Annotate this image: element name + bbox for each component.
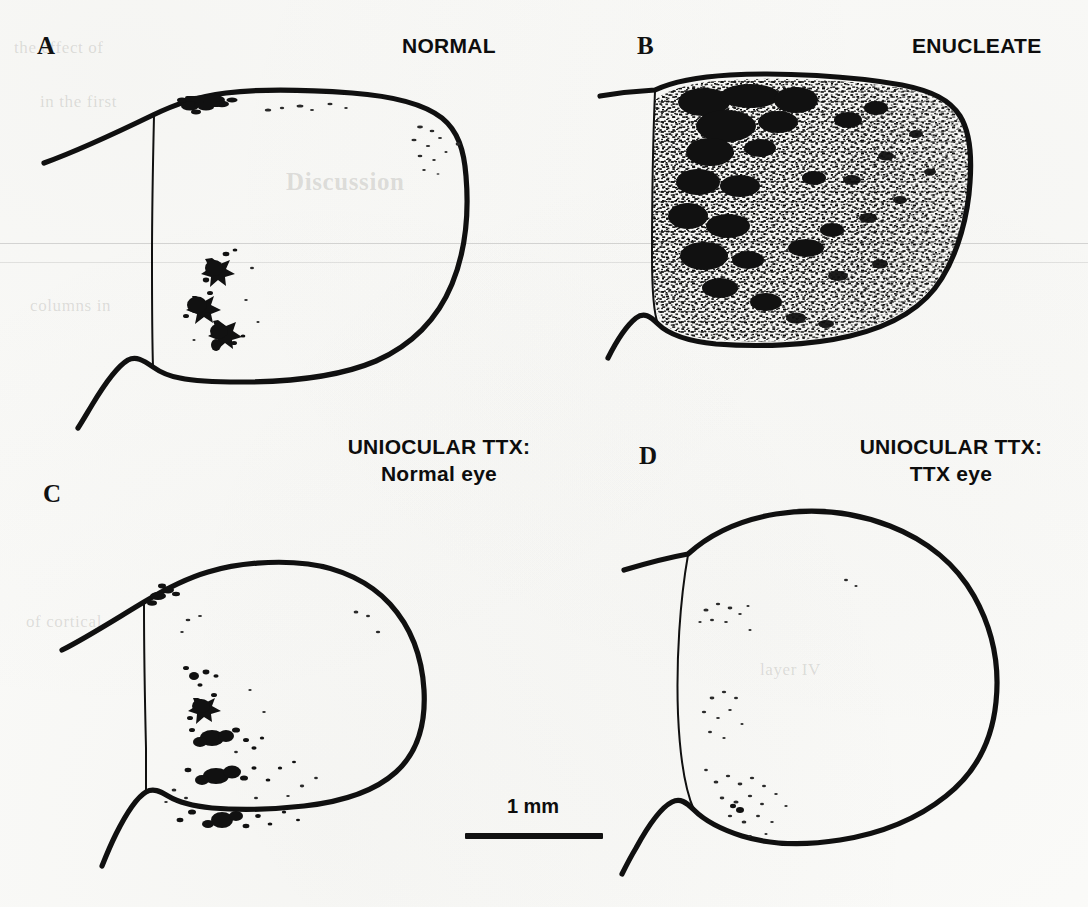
panel-d-drawing [600,470,1040,870]
panel-letter-b: B [637,33,654,58]
sparse-dots-upper-d [698,579,857,631]
panel-title-b: ENUCLEATE [912,33,1041,60]
cell-cluster-c-2 [187,693,221,724]
panel-letter-d: D [639,443,657,468]
cell-cluster-a-1 [201,248,237,287]
panel-title-d-line1: UNIOCULAR TTX: [842,434,1060,461]
layer-boundary-d [677,555,694,810]
cell-cluster-c-1 [183,666,219,687]
panel-b-drawing [600,60,1040,400]
figure-canvas: the effect of in the first Discussion co… [0,0,1088,907]
panel-title-c: UNIOCULAR TTX: Normal eye [330,434,548,488]
cell-cluster-c-4 [185,761,296,785]
cell-cluster-c-5 [177,809,300,828]
sparse-dots-upper-c [180,610,380,633]
panel-a-drawing [0,0,540,440]
scale-bar-line [465,833,603,839]
panel-title-c-line2: Normal eye [330,461,548,488]
cell-cluster-c-3 [189,727,264,749]
layer-boundary-a [152,116,154,367]
scale-bar-label: 1 mm [464,795,602,818]
sparse-dots-lower-c [164,689,318,803]
stipple-field-b [640,70,1010,360]
cell-cluster-a-2 [183,291,221,324]
panel-c-drawing [40,490,460,890]
layer-boundary-c [144,603,146,793]
label-patch-dorsal-a [177,95,238,114]
sparse-dots-mid-d [702,691,744,739]
panel-title-c-line1: UNIOCULAR TTX: [330,434,548,461]
section-outline-c [62,562,424,866]
section-outline-a [44,90,467,428]
sparse-dots-dorsal-a [265,103,348,112]
